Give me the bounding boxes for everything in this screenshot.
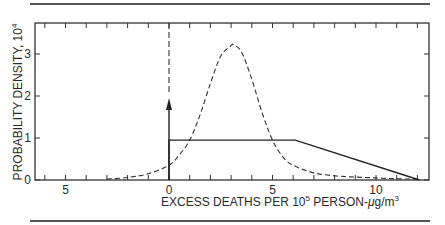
data-series [107, 23, 420, 180]
y-tick-label: 1 [24, 131, 31, 145]
tick-labels: 505100123 [24, 47, 383, 197]
plot-frame [35, 23, 429, 180]
chart-figure: 505100123 PROBABILITY DENSITY, 104 EXCES… [0, 0, 445, 225]
x-tick-label: 5 [62, 183, 69, 197]
y-tick-label: 3 [24, 47, 31, 61]
dashed-curve [107, 44, 418, 179]
arrow-head-icon [166, 98, 172, 110]
solid-curve [169, 140, 419, 180]
y-tick-label: 2 [24, 89, 31, 103]
y-tick-label: 0 [24, 173, 31, 187]
axis-ticks [35, 23, 429, 180]
y-axis-label: PROBABILITY DENSITY, 104 [10, 23, 25, 180]
x-axis-label: EXCESS DEATHS PER 105 PERSON-μg/m3 [161, 194, 400, 209]
